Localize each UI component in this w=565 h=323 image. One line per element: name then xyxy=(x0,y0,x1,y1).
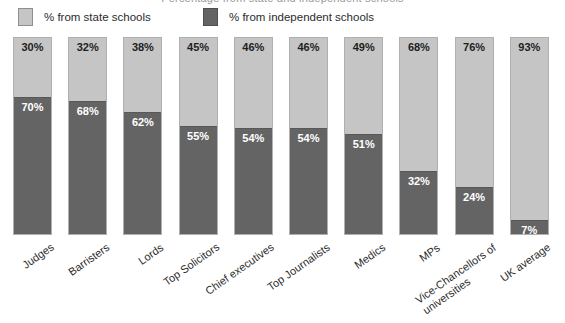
bar-value-label-state-schools: 46% xyxy=(290,41,327,53)
bar-value-label-independent-schools: 54% xyxy=(235,132,272,144)
bar-value-label-independent-schools: 55% xyxy=(180,130,217,142)
bar-segment-state-schools: 30% xyxy=(14,38,51,97)
bar-segment-state-schools: 46% xyxy=(290,38,327,128)
bar-top-solicitors: 45%55% xyxy=(179,37,218,235)
legend-swatch-state-schools-icon xyxy=(18,8,33,26)
bar-value-label-independent-schools: 32% xyxy=(400,175,437,187)
bar-value-label-state-schools: 32% xyxy=(69,41,106,53)
legend-swatch-independent-schools-icon xyxy=(203,8,218,26)
bar-lords: 38%62% xyxy=(123,37,162,235)
chart-legend: % from state schools % from independent … xyxy=(0,8,565,32)
bar-uk-average: 93%7% xyxy=(510,37,549,235)
bar-segment-state-schools: 32% xyxy=(69,38,106,101)
legend-label-state-schools: % from state schools xyxy=(44,11,151,23)
stacked-bar-chart: Percentage from state and independent sc… xyxy=(0,0,565,323)
bar-value-label-state-schools: 93% xyxy=(511,41,548,53)
bar-segment-independent-schools: 51% xyxy=(345,134,382,234)
bar-segment-independent-schools: 32% xyxy=(400,171,437,234)
bar-barristers: 32%68% xyxy=(68,37,107,235)
bar-value-label-state-schools: 45% xyxy=(180,41,217,53)
bar-value-label-independent-schools: 70% xyxy=(14,101,51,113)
bar-value-label-independent-schools: 7% xyxy=(511,224,548,234)
x-axis-label-uk-average: UK average xyxy=(498,241,553,285)
bar-segment-independent-schools: 7% xyxy=(511,220,548,234)
bar-segment-independent-schools: 24% xyxy=(456,187,493,234)
bar-value-label-state-schools: 68% xyxy=(400,41,437,53)
bar-segment-independent-schools: 62% xyxy=(124,112,161,234)
bar-top-journalists: 46%54% xyxy=(289,37,328,235)
bar-value-label-state-schools: 38% xyxy=(124,41,161,53)
bar-chief-executives: 46%54% xyxy=(234,37,273,235)
bar-segment-independent-schools: 54% xyxy=(235,128,272,234)
bar-segment-independent-schools: 70% xyxy=(14,97,51,234)
bar-value-label-independent-schools: 68% xyxy=(69,105,106,117)
legend-item-state-schools: % from state schools xyxy=(18,8,151,26)
x-axis-label-medics: Medics xyxy=(352,241,388,271)
bar-segment-independent-schools: 54% xyxy=(290,128,327,234)
bar-judges: 30%70% xyxy=(13,37,52,235)
bar-segment-independent-schools: 68% xyxy=(69,101,106,234)
bar-medics: 49%51% xyxy=(344,37,383,235)
legend-label-independent-schools: % from independent schools xyxy=(229,11,374,23)
plot-area: 30%70%32%68%38%62%45%55%46%54%46%54%49%5… xyxy=(0,37,565,235)
bar-segment-state-schools: 45% xyxy=(180,38,217,126)
bar-vice-chancellors-of-universities: 76%24% xyxy=(455,37,494,235)
chart-title-clipped: Percentage from state and independent sc… xyxy=(0,0,565,5)
bar-mps: 68%32% xyxy=(399,37,438,235)
bar-value-label-independent-schools: 54% xyxy=(290,132,327,144)
bar-value-label-independent-schools: 62% xyxy=(124,116,161,128)
bar-value-label-independent-schools: 24% xyxy=(456,191,493,203)
bar-value-label-state-schools: 76% xyxy=(456,41,493,53)
bar-value-label-state-schools: 30% xyxy=(14,41,51,53)
bar-segment-independent-schools: 55% xyxy=(180,126,217,234)
x-axis-label-lords: Lords xyxy=(136,241,166,267)
bar-segment-state-schools: 49% xyxy=(345,38,382,134)
bar-segment-state-schools: 76% xyxy=(456,38,493,187)
x-axis-labels: JudgesBarristersLordsTop SolicitorsChief… xyxy=(0,235,565,323)
legend-item-independent-schools: % from independent schools xyxy=(203,8,374,26)
x-axis-label-mps: MPs xyxy=(417,241,442,264)
bar-value-label-state-schools: 46% xyxy=(235,41,272,53)
bar-segment-state-schools: 38% xyxy=(124,38,161,112)
x-axis-label-barristers: Barristers xyxy=(66,241,112,278)
bar-value-label-state-schools: 49% xyxy=(345,41,382,53)
bar-value-label-independent-schools: 51% xyxy=(345,138,382,150)
x-axis-label-judges: Judges xyxy=(20,241,56,272)
chart-title-text: Percentage from state and independent sc… xyxy=(161,0,404,4)
bar-segment-state-schools: 46% xyxy=(235,38,272,128)
bar-segment-state-schools: 68% xyxy=(400,38,437,171)
bar-segment-state-schools: 93% xyxy=(511,38,548,220)
